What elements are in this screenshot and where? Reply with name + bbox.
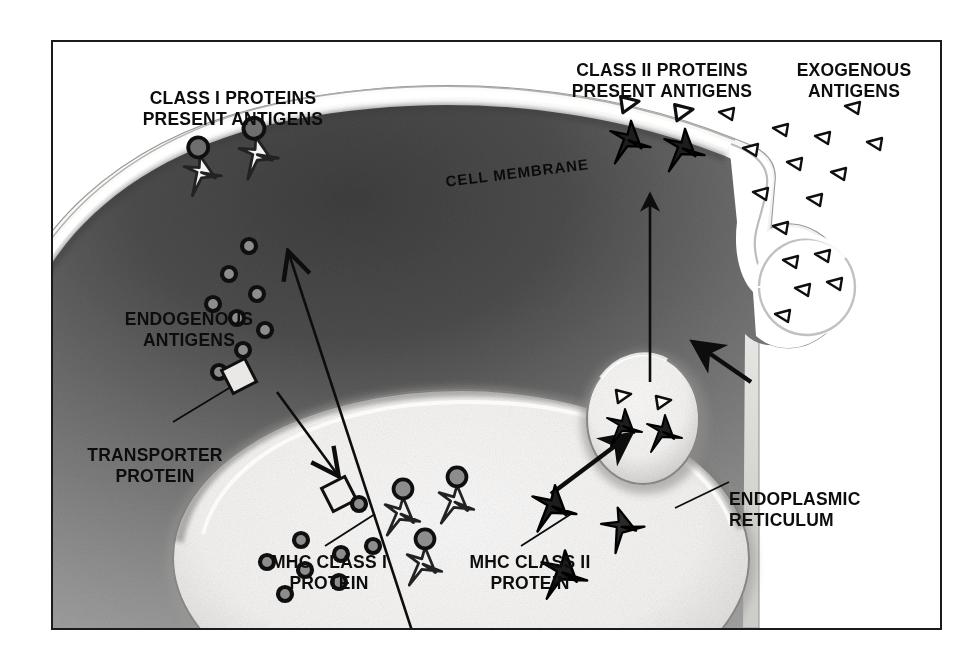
endogenous-antigen bbox=[366, 539, 380, 553]
label-exogenous-antigens: EXOGENOUS ANTIGENS bbox=[769, 60, 939, 102]
exogenous-antigen bbox=[807, 194, 822, 206]
label-mhc-class-ii-protein: MHC CLASS II PROTEIN bbox=[435, 552, 625, 594]
exogenous-antigen bbox=[831, 168, 846, 180]
label-endogenous-antigens: ENDOGENOUS ANTIGENS bbox=[89, 288, 289, 351]
label-transporter-protein: TRANSPORTER PROTEIN bbox=[57, 424, 253, 487]
endogenous-antigen bbox=[352, 497, 366, 511]
label-endogenous-antigens-text: ENDOGENOUS ANTIGENS bbox=[125, 309, 253, 350]
exogenous-antigen bbox=[773, 124, 788, 136]
exogenous-antigen bbox=[675, 105, 693, 121]
label-class-ii-proteins: CLASS II PROTEINS PRESENT ANTIGENS bbox=[537, 60, 787, 102]
label-endoplasmic-reticulum: ENDOPLASMIC RETICULUM bbox=[729, 468, 929, 531]
endogenous-antigen bbox=[294, 533, 308, 547]
exogenous-antigen bbox=[845, 102, 860, 114]
endogenous-antigen bbox=[222, 267, 236, 281]
label-class-i-proteins: CLASS I PROTEINS PRESENT ANTIGENS bbox=[113, 88, 353, 130]
exogenous-antigen bbox=[787, 158, 802, 170]
label-mhc-class-i-protein: MHC CLASS I PROTEIN bbox=[239, 552, 419, 594]
exogenous-antigen bbox=[815, 132, 830, 144]
endosome-vesicle bbox=[581, 350, 709, 494]
exogenous-antigen bbox=[719, 108, 734, 120]
label-transporter-protein-text: TRANSPORTER PROTEIN bbox=[87, 445, 222, 486]
diagram-stage: CLASS I PROTEINS PRESENT ANTIGENS CLASS … bbox=[0, 0, 977, 665]
label-endoplasmic-reticulum-text: ENDOPLASMIC RETICULUM bbox=[729, 489, 861, 530]
exogenous-antigen bbox=[867, 138, 882, 150]
endogenous-antigen bbox=[242, 239, 256, 253]
figure-frame: CLASS I PROTEINS PRESENT ANTIGENS CLASS … bbox=[51, 40, 942, 630]
